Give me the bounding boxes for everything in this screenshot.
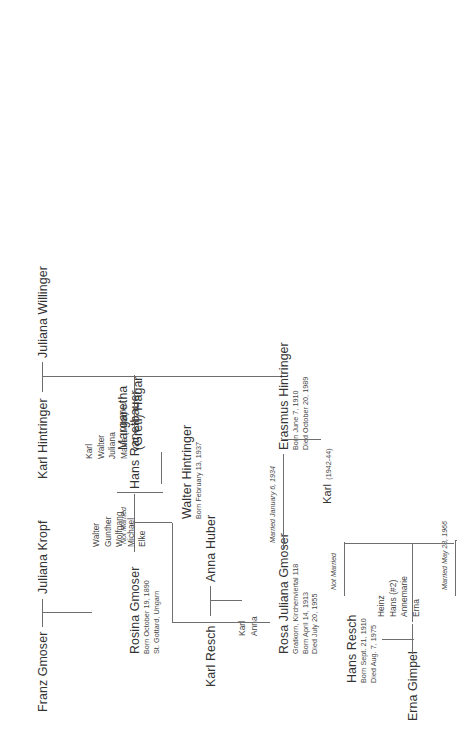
person-name: Hans Resch [345,615,359,684]
sibling-bar-hansgmoser [412,544,413,622]
person-hans-resch: Hans Resch Born Sept. 21, 1910 Died Aug.… [345,615,378,684]
person-detail: Died July 20, 1955 [310,533,320,654]
person-detail: Died Aug. 7, 1975 [369,615,379,684]
person-walter-hintringer: Walter Hintringer Born February 13, 1937 [180,425,204,519]
descent-line-rosa-to-hansgmoser [344,543,454,544]
person-margaretha-gretl-hagar: Margaretha (Gretl) Hagar [116,376,145,450]
child-name: Michael [126,511,138,547]
family-tree-canvas: Franz Gmoser Juliana Kropf Karl Hintring… [0,0,457,740]
person-name-line2: (Gretl) Hagar [131,376,146,450]
person-anna-huber: Anna Huber [204,515,218,582]
union-line-karl-juliana [42,362,43,392]
person-name: Erasmus Hintringer [277,342,291,450]
person-rosa-juliana-gmoser: Rosa Juliana Gmoser Gratkorn, Kirchenvie… [277,533,320,654]
descent-line-erasmus-rosa [283,439,321,440]
union-line-walter-margaretha [161,452,162,484]
person-detail: Born Sept. 21, 1910 [359,615,369,684]
person-detail: Born April 14, 1913 [301,533,311,654]
child-name: Karl [84,412,96,459]
child-name: Anna [249,616,261,636]
person-detail: Born June 7, 1910 [291,342,301,450]
person-erna-gimpel: Erna Gimpel [406,651,420,721]
child-name: Heinz [376,576,388,617]
person-detail: Born October 19, 1890 [142,567,152,654]
union-line-rosa-erasmus [283,454,284,550]
child-name: Gunther [103,511,115,547]
person-name-line1: Margaretha [116,376,131,450]
marriage-label-married-jan-1934: Married January 6, 1934 [269,466,277,543]
descent-line-rosina-stem [134,522,172,523]
child-name: Hans (#2) [388,576,400,617]
child-name: Walter [96,412,108,459]
walter-hintringer-children-list: Walter Gunther Wolfgang Michael Elke [91,511,149,547]
union-line-karl-anna [210,586,211,616]
person-name: Rosa Juliana Gmoser [277,533,291,654]
union-line-franz-juliana [42,599,43,627]
person-erasmus-hintringer: Erasmus Hintringer Born June 7, 1910 Die… [277,342,310,450]
child-name: Karl [237,616,249,636]
person-detail: (1942-44) [324,448,333,479]
sibling-bar-rosina-children [172,523,173,623]
person-rosina-gmoser: Rosina Gmoser Born October 19, 1890 St. … [128,567,161,654]
person-detail: St. Gottard, Ungarn [152,567,162,654]
person-juliana-willinger: Juliana Willinger [36,266,50,358]
resch-children-list: Karl Anna [237,616,260,636]
person-karl-1942-44: Karl (1942-44) [317,448,335,504]
genealogy-chart-page: Franz Gmoser Juliana Kropf Karl Hintring… [0,0,457,740]
descent-line-resch-gen1 [210,600,242,601]
marriage-label-married-may-1966: Married May 28, 1966 [441,521,449,590]
person-detail: Died October 20, 1989 [301,342,311,450]
person-karl-resch: Karl Resch [204,625,218,687]
child-name: Wolfgang [114,511,126,547]
union-line-hansresch-rosa [344,542,345,596]
person-franz-gmoser: Franz Gmoser [36,632,50,712]
union-line-hansgmoser-margaret [455,541,456,596]
descent-line-gmoser-gen1 [42,612,92,613]
person-karl-hintringer: Karl Hintringer [36,398,50,479]
child-name: Annemarie [399,576,411,617]
descent-line-resch-gimpel [382,639,414,640]
person-detail: Born February 13, 1937 [194,425,204,519]
child-name: Walter [91,511,103,547]
child-name: Elke [137,511,149,547]
resch-gimpel-children-list: Heinz Hans (#2) Annemarie Erna [376,576,422,617]
descent-line-rosa-stem [172,622,270,623]
marriage-label-not-married-hansresch: Not Married [330,553,338,590]
children-bracket-walter-kids [117,492,163,493]
person-name: Walter Hintringer [180,425,194,519]
person-juliana-kropf: Juliana Kropf [36,520,50,594]
person-detail: Gratkorn, Kirchenviertal 118 [291,533,301,654]
person-name: Karl [321,484,333,504]
person-name: Rosina Gmoser [128,567,142,654]
descent-line-hintringer-gen1 [42,376,90,377]
